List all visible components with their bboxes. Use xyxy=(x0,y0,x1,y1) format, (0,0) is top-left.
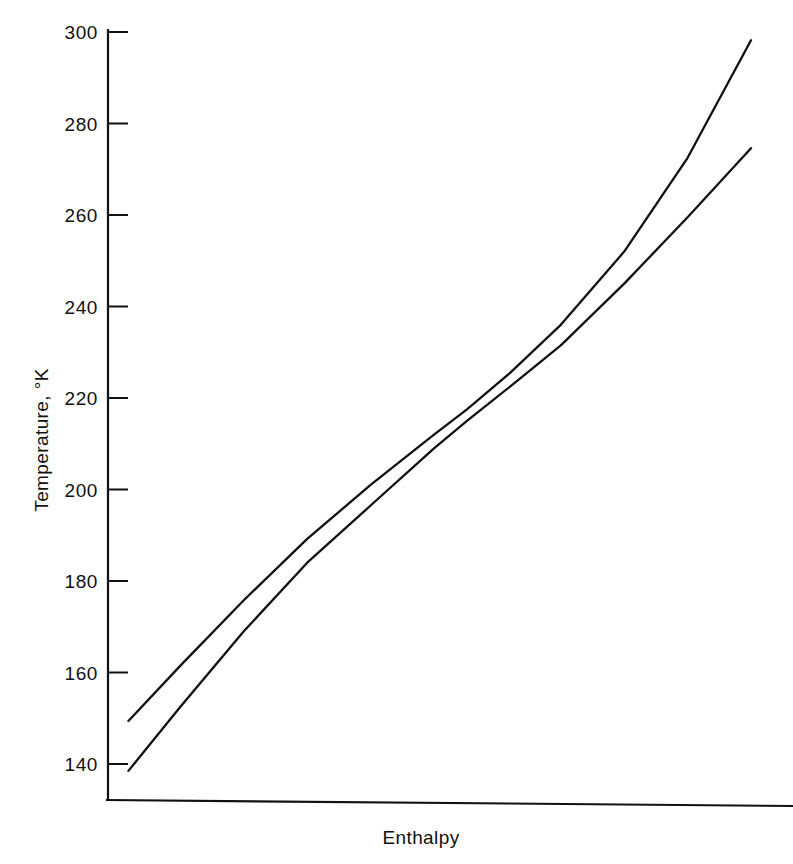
y-tick-label-140: 140 xyxy=(64,754,98,775)
y-tick-label-200: 200 xyxy=(64,480,98,501)
x-axis-title: Enthalpy xyxy=(382,827,459,848)
y-axis-title: Temperature, °K xyxy=(31,368,52,512)
series-line-lower-curve xyxy=(128,148,751,771)
y-tick-label-160: 160 xyxy=(64,663,98,684)
x-axis-spine xyxy=(107,800,793,806)
series-line-upper-curve xyxy=(128,40,751,721)
y-tick-label-280: 280 xyxy=(64,114,98,135)
y-tick-label-180: 180 xyxy=(64,571,98,592)
temperature-enthalpy-plot: 300 280 260 240 220 200 180 160 140 Temp… xyxy=(0,0,793,864)
y-tick-label-300: 300 xyxy=(64,22,98,43)
y-tick-label-220: 220 xyxy=(64,388,98,409)
series-group xyxy=(128,40,751,771)
y-tick-label-260: 260 xyxy=(64,205,98,226)
y-axis-ticks xyxy=(108,32,128,764)
chart-figure: 300 280 260 240 220 200 180 160 140 Temp… xyxy=(0,0,793,864)
y-tick-label-240: 240 xyxy=(64,297,98,318)
y-axis-tick-labels: 300 280 260 240 220 200 180 160 140 xyxy=(64,22,98,775)
